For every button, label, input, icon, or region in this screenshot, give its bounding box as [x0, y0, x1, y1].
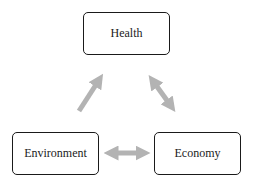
node-economy-label: Economy	[175, 146, 221, 161]
node-health: Health	[83, 12, 170, 55]
node-environment-label: Environment	[24, 146, 87, 161]
arrow-health-economy	[153, 81, 171, 106]
node-health-label: Health	[111, 26, 143, 41]
arrow-environment-to-health	[79, 80, 99, 111]
node-environment: Environment	[12, 132, 99, 175]
node-economy: Economy	[154, 132, 241, 175]
